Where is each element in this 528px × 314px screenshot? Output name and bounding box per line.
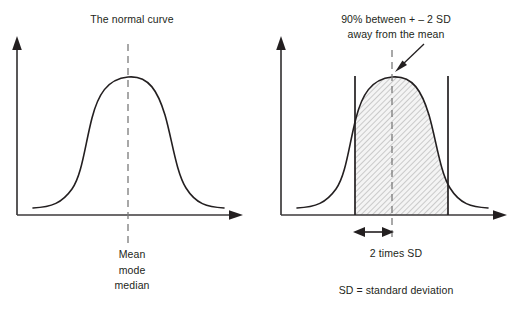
sd-annotation-line1: 90% between + – 2 SD	[264, 12, 528, 27]
x-axis-arrowhead	[493, 210, 507, 220]
x-axis	[17, 210, 243, 220]
label-median: median	[0, 278, 264, 294]
y-axis	[276, 36, 286, 215]
sd-span-arrow-icon	[353, 227, 394, 237]
sd-span-label: 2 times SD	[264, 246, 528, 261]
normal-curve-figure: The normal curve Mean mode median	[0, 0, 528, 314]
center-tendency-label: Mean mode median	[0, 247, 264, 294]
sd-annotation-line2: away from the mean	[264, 27, 528, 42]
label-mean: Mean	[0, 247, 264, 263]
annotation-arrow-icon	[395, 44, 424, 72]
x-axis-arrowhead	[229, 210, 243, 220]
y-axis	[12, 36, 22, 215]
panel-sd-curve: 90% between + – 2 SD away from the mean	[264, 0, 528, 314]
right-chart-svg	[264, 0, 528, 314]
sd-footnote: SD = standard deviation	[264, 283, 528, 298]
page-title: The normal curve	[0, 12, 264, 27]
label-mode: mode	[0, 263, 264, 279]
y-axis-arrowhead	[12, 36, 22, 50]
sd-annotation-text: 90% between + – 2 SD away from the mean	[264, 12, 528, 41]
panel-normal-curve: The normal curve Mean mode median	[0, 0, 264, 314]
